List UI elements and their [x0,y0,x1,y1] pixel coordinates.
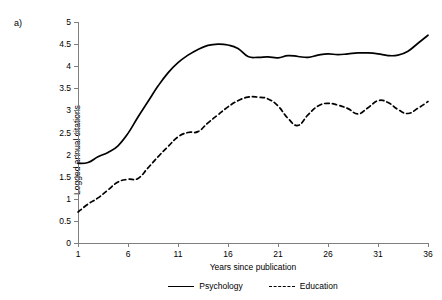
y-tick-label: 4 [66,62,71,71]
x-tick-mark [328,243,329,247]
x-tick-mark [428,243,429,247]
y-tick-label: 2.5 [59,128,71,137]
series-lines [78,22,428,243]
legend-label: Psychology [199,282,242,291]
legend-label: Education [300,282,338,291]
legend-swatch-solid-icon [168,286,194,287]
y-tick-label: 0 [66,239,71,248]
x-tick-mark [378,243,379,247]
y-tick-label: 2 [66,150,71,159]
y-tick-label: 5 [66,18,71,27]
y-tick-label: 1 [66,195,71,204]
x-axis-line [78,243,428,244]
x-tick-mark [228,243,229,247]
x-tick-mark [78,243,79,247]
series-line-education [78,97,428,212]
x-tick-label: 21 [273,250,282,259]
x-tick-label: 16 [223,250,232,259]
panel-label: a) [14,18,22,28]
x-tick-label: 36 [423,250,432,259]
x-tick-mark [278,243,279,247]
y-tick-label: 4.5 [59,40,71,49]
y-tick-label: 0.5 [59,217,71,226]
legend-item-education: Education [269,282,338,291]
x-tick-mark [178,243,179,247]
x-axis-title: Years since publication [78,262,428,272]
y-tick-label: 3 [66,106,71,115]
plot-area: 00.511.522.533.544.55 16111621263136 [78,22,428,243]
x-tick-label: 31 [373,250,382,259]
chart-legend: Psychology Education [78,282,428,291]
y-tick-label: 3.5 [59,84,71,93]
x-tick-mark [128,243,129,247]
figure-panel: a) Logged annual citations 00.511.522.53… [0,0,442,300]
y-tick-label: 1.5 [59,172,71,181]
series-line-psychology [78,35,428,163]
x-tick-label: 6 [126,250,131,259]
legend-item-psychology: Psychology [168,282,242,291]
x-tick-label: 11 [174,250,183,259]
x-tick-label: 1 [76,250,81,259]
legend-swatch-dashed-icon [269,286,295,287]
x-tick-label: 26 [323,250,332,259]
